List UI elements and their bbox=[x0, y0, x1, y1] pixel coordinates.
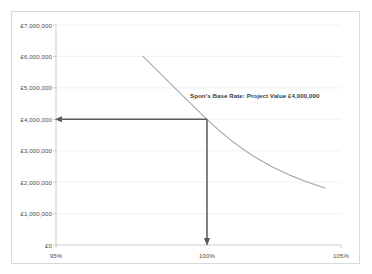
horizontal-value-guide bbox=[55, 116, 207, 122]
x-tick-label-100: 100% bbox=[187, 252, 227, 259]
y-tick-label-2000000: £2,000,000 bbox=[6, 179, 52, 186]
y-tick-label-4000000: £4,000,000 bbox=[6, 116, 52, 123]
x-tick-label-95: 95% bbox=[36, 252, 76, 259]
y-tick-label-5000000: £5,000,000 bbox=[6, 84, 52, 91]
y-axis-ticks bbox=[53, 25, 56, 245]
y-tick-label-3000000: £3,000,000 bbox=[6, 147, 52, 154]
y-tick-label-1000000: £1,000,000 bbox=[6, 210, 52, 217]
y-tick-label-7000000: £7,000,000 bbox=[6, 22, 52, 29]
vertical-rate-guide bbox=[204, 119, 210, 246]
y-tick-label-0: £0 bbox=[6, 242, 52, 249]
y-tick-label-6000000: £6,000,000 bbox=[6, 53, 52, 60]
x-axis-ticks bbox=[56, 245, 341, 248]
chart-plot-area bbox=[0, 0, 372, 274]
base-rate-annotation: Spon's Base Rate: Project Value £4,000,0… bbox=[190, 92, 319, 99]
x-tick-label-105: 105% bbox=[321, 252, 361, 259]
tender-rate-curve bbox=[143, 56, 325, 188]
